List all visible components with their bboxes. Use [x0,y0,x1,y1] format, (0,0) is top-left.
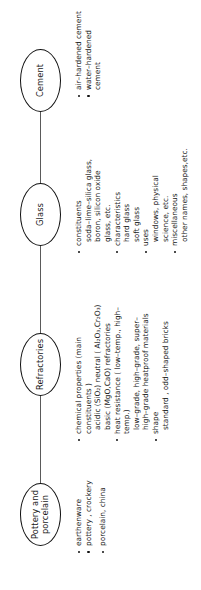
node-label: Pottery and porcelain [31,490,50,539]
node-label: Glass [36,203,45,226]
bullet-label: porcelain, china [98,458,108,546]
bullet-subline: soda–lime–silica glass, [84,104,94,246]
bullet-label: chemical properties (main constituents ) [74,266,93,434]
bullet-group-refractories: chemical properties (main constituents )… [74,266,170,442]
bullet-label: air–hardened cement [74,2,84,90]
node-label: Cement [36,64,45,97]
bullet-subline: glass, etc. [103,104,113,246]
bullet-label: uses [141,104,151,246]
bullet-subline: science, etc. [161,104,171,246]
bullet-label: heat resistance ( low–temp., high– temp.… [113,266,132,434]
node-pottery-and-porcelain[interactable]: Pottery and porcelain [20,483,61,546]
bullet-label: miscellaneous [170,104,180,246]
list-item: air–hardened cement [74,2,84,98]
diagram-canvas: Pottery and porcelain Refractories Glass… [0,0,201,590]
bullet-group-pottery: earthenware pottery , crockery porcelain… [74,458,108,554]
bullet-subline: other names, shapes,etc. [180,104,190,246]
list-item: miscellaneous other names, shapes,etc. [170,104,189,254]
bullet-subline: hard glass [122,104,132,246]
bullet-subline: boron, silicon oxide [93,104,103,246]
node-glass[interactable]: Glass [20,183,61,246]
bullet-subline: soft glass [132,104,142,246]
list-item: pottery , crockery [84,458,94,554]
node-label: Refractories [36,339,45,390]
node-cement[interactable]: Cement [20,49,61,112]
bullet-label: water–hardened cement [84,2,103,90]
list-item: characteristics hard glass soft glass [113,104,142,254]
list-item: porcelain, china [98,458,108,554]
connector-spine [40,60,41,530]
list-item: uses windows, physical science, etc. [141,104,170,254]
list-item: shape standard , odd–shaped bricks [151,266,170,442]
list-item: heat resistance ( low–temp., high– temp.… [113,266,152,442]
node-refractories[interactable]: Refractories [20,333,61,396]
bullet-subline: acidic (SiO₂) neutral ( Al₂O₃,Cr₂O₃) [93,266,103,434]
bullet-subline: high–grade heatproof materials [141,266,151,434]
list-item: constituents soda–lime–silica glass, bor… [74,104,113,254]
bullet-label: shape [151,266,161,434]
list-item: earthenware [74,458,84,554]
bullet-subline: windows, physical [151,104,161,246]
list-item: water–hardened cement [84,2,103,98]
diagram-rotor: Pottery and porcelain Refractories Glass… [0,0,201,590]
bullet-group-cement: air–hardened cement water–hardened cemen… [74,2,103,98]
bullet-label: characteristics [113,104,123,246]
bullet-group-glass: constituents soda–lime–silica glass, bor… [74,104,190,254]
list-item: chemical properties (main constituents )… [74,266,113,442]
bullet-subline: standard , odd–shaped bricks [161,266,171,434]
bullet-subline: basic (MgO,CaO) refractories [103,266,113,434]
bullet-label: constituents [74,104,84,246]
bullet-subline: low–grade, high–grade, super– [132,266,142,434]
bullet-label: earthenware [74,458,84,546]
bullet-label: pottery , crockery [84,458,94,546]
